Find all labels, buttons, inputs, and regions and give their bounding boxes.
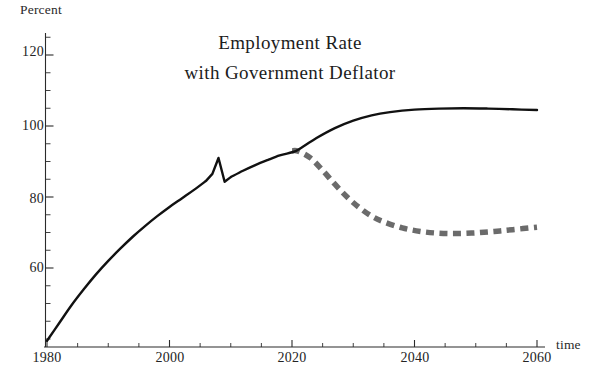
x-axis-ticks bbox=[47, 340, 537, 347]
axis-lines bbox=[44, 33, 545, 347]
plot-area bbox=[0, 0, 594, 371]
series-line-alternative-scenario bbox=[292, 151, 537, 234]
employment-rate-chart: Percent time Employment Rate with Govern… bbox=[0, 0, 594, 371]
y-axis-ticks bbox=[46, 37, 54, 339]
series-line-baseline bbox=[47, 108, 537, 341]
